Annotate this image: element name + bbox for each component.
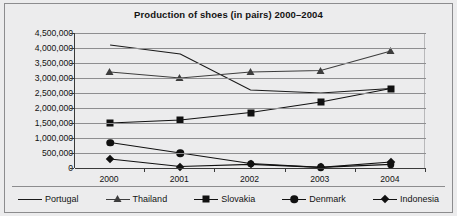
legend-marker-diamond-icon xyxy=(381,195,389,203)
legend-key-thailand xyxy=(106,194,130,204)
x-axis-tick-label: 2003 xyxy=(290,174,350,184)
legend-marker-triangle-icon xyxy=(113,195,121,202)
y-axis-tick-label: 4,000,000 xyxy=(1,43,73,53)
legend-marker-square-icon xyxy=(203,196,210,203)
x-axis-tick-label: 2004 xyxy=(360,174,420,184)
y-axis-tick-label: 4,500,000 xyxy=(1,28,73,38)
legend-marker-circle-icon xyxy=(291,195,299,203)
legend-key-portugal xyxy=(18,194,42,204)
legend-key-slovakia xyxy=(194,194,218,204)
legend-line-swatch xyxy=(18,199,42,200)
y-axis-tick-label: 2,500,000 xyxy=(1,88,73,98)
y-gridline xyxy=(75,48,426,49)
data-point-thailand xyxy=(106,68,114,75)
data-point-denmark xyxy=(106,139,114,147)
legend-label: Denmark xyxy=(309,194,346,204)
legend-label: Thailand xyxy=(133,194,168,204)
legend-label: Portugal xyxy=(45,194,79,204)
plot-area xyxy=(74,33,425,168)
legend-label: Slovakia xyxy=(221,194,255,204)
y-axis-tick-label: 3,000,000 xyxy=(1,73,73,83)
y-gridline xyxy=(75,138,426,139)
y-axis-tick-label: 1,500,000 xyxy=(1,118,73,128)
x-axis-tick-label: 2001 xyxy=(149,174,209,184)
data-point-thailand xyxy=(246,68,254,75)
y-axis-tick-label: 3,500,000 xyxy=(1,58,73,68)
legend-item-denmark[interactable]: Denmark xyxy=(282,194,346,204)
data-point-slovakia xyxy=(317,99,324,106)
legend-label: Indonesia xyxy=(400,194,439,204)
y-gridline xyxy=(75,108,426,109)
x-axis-tick-label: 2002 xyxy=(220,174,280,184)
y-gridline xyxy=(75,123,426,124)
y-gridline xyxy=(75,78,426,79)
y-gridline xyxy=(75,168,426,169)
y-axis-tick-label: 1,000,000 xyxy=(1,133,73,143)
legend-item-slovakia[interactable]: Slovakia xyxy=(194,194,255,204)
legend-key-denmark xyxy=(282,194,306,204)
legend-item-portugal[interactable]: Portugal xyxy=(18,194,79,204)
y-gridline xyxy=(75,93,426,94)
chart-container: Production of shoes (in pairs) 2000–2004… xyxy=(0,0,457,216)
y-axis-tick-label: 2,000,000 xyxy=(1,103,73,113)
x-axis-tick-label: 2000 xyxy=(79,174,139,184)
data-point-thailand xyxy=(316,67,324,74)
y-gridline xyxy=(75,33,426,34)
y-axis-tick-label: 500,000 xyxy=(1,148,73,158)
chart-legend: PortugalThailandSlovakiaDenmarkIndonesia xyxy=(12,191,445,207)
chart-title: Production of shoes (in pairs) 2000–2004 xyxy=(0,9,457,20)
y-gridline xyxy=(75,63,426,64)
data-point-slovakia xyxy=(247,109,254,116)
legend-item-indonesia[interactable]: Indonesia xyxy=(373,194,439,204)
legend-divider xyxy=(12,186,445,187)
legend-key-indonesia xyxy=(373,194,397,204)
data-point-slovakia xyxy=(387,85,394,92)
y-axis-tick-label: 0 xyxy=(1,163,73,173)
legend-item-thailand[interactable]: Thailand xyxy=(106,194,168,204)
series-lines xyxy=(75,33,426,168)
y-gridline xyxy=(75,153,426,154)
y-axis-tick-mark xyxy=(70,168,74,169)
